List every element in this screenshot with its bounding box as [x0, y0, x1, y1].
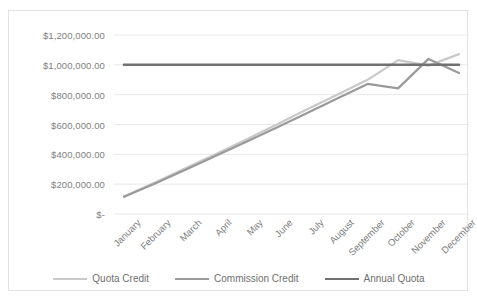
y-axis-tick-label: $1,200,000.00	[43, 30, 105, 41]
y-axis-tick-label: $-	[96, 209, 105, 220]
chart-legend: Quota CreditCommission CreditAnnual Quot…	[9, 273, 469, 284]
legend-line-icon	[175, 278, 209, 280]
legend-label: Annual Quota	[364, 273, 425, 284]
gridlines	[114, 35, 469, 214]
plot-svg	[114, 25, 469, 215]
x-axis-tick-label: April	[213, 217, 234, 238]
series-lines	[124, 54, 459, 197]
legend-item[interactable]: Commission Credit	[175, 273, 298, 284]
y-axis-tick-label: $800,000.00	[51, 89, 105, 100]
y-axis-tick-label: $600,000.00	[51, 119, 105, 130]
y-axis: $-$200,000.00$400,000.00$600,000.00$800,…	[9, 25, 109, 221]
x-axis-tick-label: February	[139, 217, 174, 252]
chart-frame: $-$200,000.00$400,000.00$600,000.00$800,…	[8, 10, 468, 291]
y-axis-tick-label: $200,000.00	[51, 179, 105, 190]
legend-label: Commission Credit	[214, 273, 298, 284]
x-axis-tick-label: May	[244, 217, 264, 237]
x-axis-tick-label: June	[273, 217, 295, 239]
legend-line-icon	[53, 278, 87, 280]
x-axis-tick-label: August	[327, 217, 356, 246]
legend-item[interactable]: Annual Quota	[325, 273, 425, 284]
legend-item[interactable]: Quota Credit	[53, 273, 149, 284]
legend-label: Quota Credit	[92, 273, 149, 284]
legend-line-icon	[325, 278, 359, 280]
x-axis-tick-label: March	[177, 217, 203, 243]
x-axis: JanuaryFebruaryMarchAprilMayJuneJulyAugu…	[114, 217, 474, 269]
x-axis-tick-label: July	[306, 217, 326, 237]
y-axis-tick-label: $400,000.00	[51, 149, 105, 160]
chart-title-cropped	[129, 2, 369, 12]
series-line[interactable]	[124, 59, 459, 197]
plot-area	[114, 25, 469, 215]
y-axis-tick-label: $1,000,000.00	[43, 59, 105, 70]
